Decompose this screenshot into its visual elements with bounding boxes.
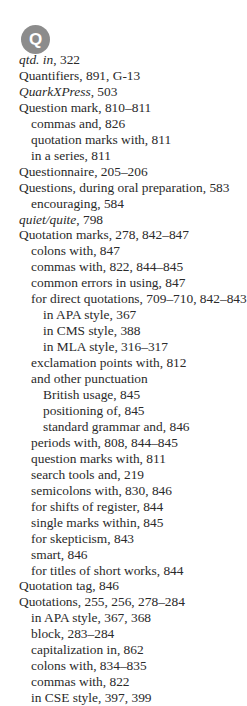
index-entry: question marks with, 811 — [19, 451, 247, 467]
index-entry: for titles of short works, 844 — [19, 563, 247, 579]
index-pages: , 397, 399 — [98, 690, 152, 705]
index-term: Questions, during oral preparation — [19, 180, 203, 195]
index-pages: , 709–710, 842–843 — [140, 291, 247, 306]
index-term: for skepticism — [31, 531, 107, 546]
index-entry: standard grammar and, 846 — [19, 419, 247, 435]
index-term: British usage — [43, 387, 113, 402]
index-term: colons with — [31, 243, 93, 258]
index-pages: , 846 — [92, 578, 119, 593]
index-term: qtd. in — [19, 52, 53, 67]
index-entry: exclamation points with, 812 — [19, 355, 247, 371]
index-term: Quantifiers — [19, 68, 79, 83]
index-entry: British usage, 845 — [19, 387, 247, 403]
index-entry: smart, 846 — [19, 547, 247, 563]
index-term: periods with — [31, 435, 98, 450]
index-term: for shifts of register — [31, 499, 136, 514]
index-term: Quotations — [19, 594, 78, 609]
index-entry: in a series, 811 — [19, 148, 247, 164]
index-entry: in APA style, 367 — [19, 307, 247, 323]
index-pages: , 367, 368 — [97, 610, 151, 625]
index-entry: periods with, 808, 844–845 — [19, 435, 247, 451]
index-entry: for direct quotations, 709–710, 842–843 — [19, 291, 247, 307]
index-entry: Questions, during oral preparation, 583 — [19, 180, 247, 196]
index-term: in APA style — [31, 610, 97, 625]
index-term: for titles of short works — [31, 563, 157, 578]
index-entry: in MLA style, 316–317 — [19, 339, 247, 355]
index-term: Question mark — [19, 100, 98, 115]
index-term: in CMS style — [43, 323, 114, 338]
index-pages: , 845 — [118, 403, 145, 418]
index-entry: search tools and, 219 — [19, 467, 247, 483]
index-pages: , 847 — [159, 275, 186, 290]
index-pages: , 811 — [145, 132, 171, 147]
index-term: block — [31, 626, 61, 641]
index-pages: , 367 — [109, 307, 136, 322]
index-term: colons with — [31, 658, 93, 673]
index-pages: , 811 — [140, 451, 166, 466]
index-term: commas with — [31, 259, 103, 274]
index-pages: , 822, 844–845 — [103, 259, 183, 274]
index-pages: , 812 — [160, 355, 187, 370]
index-entry: semicolons with, 830, 846 — [19, 483, 247, 499]
index-term: positioning of — [43, 403, 118, 418]
index-term: question marks with — [31, 451, 140, 466]
index-entry: and other punctuation — [19, 371, 247, 387]
index-entry: commas with, 822, 844–845 — [19, 259, 247, 275]
index-term: Questionnaire — [19, 164, 94, 179]
index-pages: , 322 — [53, 52, 80, 67]
index-entry: positioning of, 845 — [19, 403, 247, 419]
index-term: commas with — [31, 674, 103, 689]
index-term: quiet/quite — [19, 212, 76, 227]
index-entry: QuarkXPress, 503 — [19, 84, 247, 100]
index-entry: block, 283–284 — [19, 626, 247, 642]
index-term: common errors in using — [31, 275, 159, 290]
index-pages: , 834–835 — [93, 658, 147, 673]
index-entry: in CMS style, 388 — [19, 323, 247, 339]
index-entry: encouraging, 584 — [19, 196, 247, 212]
index-entry: Questionnaire, 205–206 — [19, 164, 247, 180]
index-entry: Quotation tag, 846 — [19, 578, 247, 594]
index-pages: , 844 — [157, 563, 184, 578]
index-pages: , 316–317 — [114, 339, 168, 354]
index-pages: , 846 — [61, 547, 88, 562]
index-entry: single marks within, 845 — [19, 515, 247, 531]
index-pages: , 845 — [113, 387, 140, 402]
index-entry: common errors in using, 847 — [19, 275, 247, 291]
index-term: capitalization in — [31, 642, 117, 657]
index-pages: , 283–284 — [61, 626, 115, 641]
index-pages: , 388 — [114, 323, 141, 338]
index-term: single marks within — [31, 515, 137, 530]
index-pages: , 862 — [117, 642, 144, 657]
index-entry: capitalization in, 862 — [19, 642, 247, 658]
index-term: Quotation marks — [19, 227, 109, 242]
index-term: search tools and — [31, 467, 117, 482]
index-entry: Quotation marks, 278, 842–847 — [19, 227, 247, 243]
index-entry: commas and, 826 — [19, 116, 247, 132]
index-pages: , 826 — [98, 116, 125, 131]
index-pages: , 583 — [203, 180, 230, 195]
index-entry: quotation marks with, 811 — [19, 132, 247, 148]
index-pages: , 205–206 — [94, 164, 148, 179]
index-term: commas and — [31, 116, 98, 131]
index-pages: , 830, 846 — [118, 483, 172, 498]
index-entry: qtd. in, 322 — [19, 52, 247, 68]
index-entry: in APA style, 367, 368 — [19, 610, 247, 626]
index-entry: commas with, 822 — [19, 674, 247, 690]
section-letter-badge: Q — [21, 25, 50, 54]
index-entry: Quotations, 255, 256, 278–284 — [19, 594, 247, 610]
index-pages: , 845 — [137, 515, 164, 530]
index-pages: , 844 — [136, 499, 163, 514]
index-pages: , 219 — [117, 467, 144, 482]
index-pages: , 584 — [97, 196, 124, 211]
index-term: in MLA style — [43, 339, 114, 354]
index-term: in a series — [31, 148, 85, 163]
index-entry: quiet/quite, 798 — [19, 212, 247, 228]
index-term: exclamation points with — [31, 355, 160, 370]
index-pages: , 846 — [163, 419, 190, 434]
index-pages: , 843 — [107, 531, 134, 546]
index-term: semicolons with — [31, 483, 118, 498]
index-term: in APA style — [43, 307, 109, 322]
index-term: QuarkXPress — [19, 84, 91, 99]
index-entry-list: qtd. in, 322Quantifiers, 891, G-13QuarkX… — [19, 52, 247, 706]
index-pages: , 811 — [85, 148, 111, 163]
